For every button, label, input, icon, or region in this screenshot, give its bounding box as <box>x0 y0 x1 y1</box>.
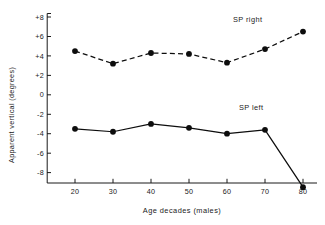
sp-right-line <box>75 32 303 64</box>
line-chart: Apparent vertical (degrees) +8 +6 +4 +2 … <box>0 0 325 225</box>
series-label-sp-left: SP left <box>239 103 263 112</box>
x-tick-label-60: 60 <box>223 187 232 196</box>
data-point <box>110 129 116 135</box>
x-axis-title: Age decades (males) <box>143 206 221 215</box>
series-sp-right <box>72 29 306 67</box>
data-point <box>148 121 154 127</box>
data-point <box>186 51 192 57</box>
y-axis-title: Apparent vertical (degrees) <box>7 67 16 163</box>
y-tick-label-8: +8 <box>35 13 44 22</box>
y-tick-label-2: +2 <box>35 71 44 80</box>
x-tick-label-30: 30 <box>109 187 118 196</box>
y-tick-label-0: 0 <box>40 90 44 99</box>
x-tick-label-50: 50 <box>185 187 194 196</box>
data-point <box>300 184 306 190</box>
data-point <box>110 61 116 67</box>
data-point <box>262 127 268 133</box>
x-tick-label-40: 40 <box>147 187 156 196</box>
data-point <box>224 131 230 137</box>
data-point <box>300 29 306 35</box>
sp-right-markers <box>72 29 306 67</box>
data-point <box>72 48 78 54</box>
y-axis-line <box>47 14 51 184</box>
x-tick-marks <box>75 179 303 183</box>
y-tick-label-neg6: -6 <box>37 149 44 158</box>
x-tick-label-20: 20 <box>71 187 80 196</box>
chart-figure: Apparent vertical (degrees) +8 +6 +4 +2 … <box>0 0 325 225</box>
y-tick-label-neg4: -4 <box>37 129 44 138</box>
y-tick-label-neg8: -8 <box>37 168 44 177</box>
y-tick-label-neg2: -2 <box>37 110 44 119</box>
data-point <box>148 50 154 56</box>
data-point <box>224 60 230 66</box>
y-tick-label-4: +4 <box>35 52 44 61</box>
sp-left-line <box>75 124 303 187</box>
data-point <box>262 46 268 52</box>
series-label-sp-right: SP right <box>233 15 262 24</box>
y-tick-label-6: +6 <box>35 32 44 41</box>
x-tick-label-70: 70 <box>261 187 270 196</box>
data-point <box>72 126 78 132</box>
data-point <box>186 125 192 131</box>
